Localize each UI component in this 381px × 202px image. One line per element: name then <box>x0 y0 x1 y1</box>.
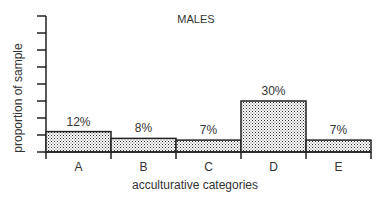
category-label: A <box>74 160 82 174</box>
category-label: D <box>269 160 278 174</box>
bar-D <box>241 101 306 152</box>
bar-value-label: 12% <box>66 115 90 129</box>
x-axis-ticks: ABCDE <box>46 152 371 174</box>
category-label: E <box>334 160 342 174</box>
x-axis-label: acculturative categories <box>132 178 258 192</box>
category-label: B <box>139 160 147 174</box>
category-label: C <box>204 160 213 174</box>
bar-value-label: 8% <box>135 121 153 135</box>
bar-value-label: 30% <box>261 84 285 98</box>
bar-B <box>111 138 176 152</box>
bar-value-label: 7% <box>330 123 348 137</box>
y-axis-label: proportion of sample <box>11 43 25 153</box>
bar-C <box>176 140 241 152</box>
bar-A <box>46 132 111 152</box>
bar-E <box>306 140 371 152</box>
y-axis-ticks <box>37 16 46 152</box>
chart-title: MALES <box>177 13 214 25</box>
bar-value-label: 7% <box>200 123 218 137</box>
bars: 12%8%7%30%7% <box>46 84 371 152</box>
bar-chart: MALES proportion of sample 12%8%7%30%7% … <box>0 0 381 202</box>
